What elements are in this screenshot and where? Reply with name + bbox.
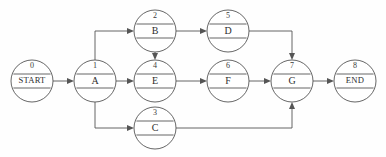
arrowhead-icon xyxy=(127,125,134,131)
node-f[interactable]: 6 F xyxy=(207,60,249,102)
node-g-label: G xyxy=(288,75,295,86)
arrowhead-icon xyxy=(127,28,134,34)
arrowhead-icon xyxy=(127,78,134,84)
edge-b-to-d xyxy=(176,28,207,34)
arrowhead-icon xyxy=(264,78,271,84)
node-start[interactable]: 0 START xyxy=(11,60,53,102)
arrowhead-icon xyxy=(67,78,74,84)
node-c-label: C xyxy=(152,122,159,133)
edge-c-to-g xyxy=(176,102,295,128)
node-a-label: A xyxy=(91,75,99,86)
node-end[interactable]: 8 END xyxy=(334,60,376,102)
edge-g-to-end xyxy=(313,78,334,84)
node-end-label: END xyxy=(346,75,364,85)
node-c[interactable]: 3 C xyxy=(134,107,176,149)
edge-f-to-g xyxy=(249,78,271,84)
node-f-label: F xyxy=(225,75,231,86)
arrowhead-icon xyxy=(200,28,207,34)
edge-a-to-e xyxy=(116,78,134,84)
node-g-id: 7 xyxy=(290,61,294,70)
node-c-id: 3 xyxy=(153,108,157,117)
network-diagram-canvas: 0 START 1 A 2 B xyxy=(0,0,386,157)
network-diagram-svg: 0 START 1 A 2 B xyxy=(0,0,386,157)
node-a-id: 1 xyxy=(93,61,97,70)
edge-a-to-b xyxy=(95,28,134,60)
node-g[interactable]: 7 G xyxy=(271,60,313,102)
node-d[interactable]: 5 D xyxy=(207,10,249,52)
node-e-label: E xyxy=(152,75,158,86)
arrowhead-icon xyxy=(289,102,295,109)
node-e-id: 4 xyxy=(153,61,157,70)
arrowhead-icon xyxy=(200,78,207,84)
node-end-id: 8 xyxy=(353,61,357,70)
node-start-id: 0 xyxy=(30,61,34,70)
node-e[interactable]: 4 E xyxy=(134,60,176,102)
edge-a-to-c xyxy=(95,102,134,131)
node-b-id: 2 xyxy=(153,11,157,20)
node-d-label: D xyxy=(224,25,231,36)
arrowhead-icon xyxy=(152,53,158,60)
node-b[interactable]: 2 B xyxy=(134,10,176,52)
node-f-id: 6 xyxy=(226,61,230,70)
edge-d-to-g xyxy=(249,31,295,60)
node-start-label: START xyxy=(18,75,46,85)
edge-start-to-a xyxy=(53,78,74,84)
arrowhead-icon xyxy=(289,53,295,60)
edge-b-to-e xyxy=(152,52,158,60)
node-a[interactable]: 1 A xyxy=(74,60,116,102)
arrowhead-icon xyxy=(327,78,334,84)
node-d-id: 5 xyxy=(226,11,230,20)
edge-e-to-f xyxy=(176,78,207,84)
node-b-label: B xyxy=(152,25,159,36)
